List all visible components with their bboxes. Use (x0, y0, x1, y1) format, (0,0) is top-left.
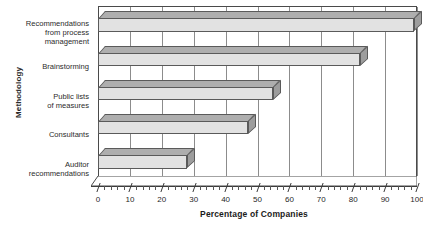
category-label-line: Auditor (65, 160, 89, 169)
x-tick-minor-64 (302, 186, 303, 190)
x-tick-label-10: 10 (125, 195, 134, 204)
x-tick-minor-54 (270, 186, 271, 190)
x-tick-label-100: 100 (410, 195, 423, 204)
x-tick-label-40: 40 (221, 195, 230, 204)
bar (98, 114, 248, 127)
x-tick-minor-8 (124, 186, 125, 190)
x-tick-minor-6 (117, 186, 118, 190)
x-tick-minor-94 (398, 186, 399, 190)
gridline-100 (417, 7, 418, 176)
x-tick-minor-98 (411, 186, 412, 190)
category-label: Consultants (10, 130, 89, 139)
bar-front-face (98, 53, 360, 66)
bar-front-face (98, 18, 414, 31)
bar (98, 11, 414, 24)
x-tick-minor-88 (379, 186, 380, 190)
x-tick-label-80: 80 (349, 195, 358, 204)
x-tick-minor-78 (347, 186, 348, 190)
x-tick-minor-18 (155, 186, 156, 190)
x-tick-minor-56 (277, 186, 278, 190)
x-tick-minor-12 (136, 186, 137, 190)
category-label-line: Consultants (49, 130, 89, 139)
x-tick-label-50: 50 (253, 195, 262, 204)
x-tick-minor-24 (175, 186, 176, 190)
x-tick-minor-28 (187, 186, 188, 190)
category-label-line: from process (45, 28, 89, 37)
bar (98, 46, 360, 59)
x-tick-minor-46 (245, 186, 246, 190)
x-tick-minor-86 (372, 186, 373, 190)
category-label-group: Recommendationsfrom processmanagementBra… (10, 8, 89, 184)
x-tick-minor-62 (296, 186, 297, 190)
x-tick-label-90: 90 (381, 195, 390, 204)
x-tick-minor-34 (206, 186, 207, 190)
x-tick-label-30: 30 (189, 195, 198, 204)
x-tick-minor-38 (219, 186, 220, 190)
x-tick-minor-2 (104, 186, 105, 190)
x-tick-minor-26 (181, 186, 182, 190)
x-tick-minor-44 (238, 186, 239, 190)
x-tick-minor-52 (264, 186, 265, 190)
x-tick-minor-14 (143, 186, 144, 190)
plot-area (91, 6, 417, 186)
x-tick-minor-68 (315, 186, 316, 190)
x-tick-minor-84 (366, 186, 367, 190)
x-tick-minor-92 (391, 186, 392, 190)
bar-group-container (91, 6, 417, 186)
category-label-line: Public lists (53, 92, 89, 101)
category-label: Recommendationsfrom processmanagement (10, 19, 89, 46)
x-tick-minor-32 (200, 186, 201, 190)
x-tick-minor-76 (340, 186, 341, 190)
bar-front-face (98, 87, 273, 100)
x-tick-minor-36 (213, 186, 214, 190)
bar-front-face (98, 121, 248, 134)
bar-chart: ·· ····· ··· ··· Methodology Recommendat… (0, 0, 423, 227)
category-label: Brainstorming (10, 62, 89, 71)
x-tick-minor-58 (283, 186, 284, 190)
x-tick-minor-4 (111, 186, 112, 190)
x-tick-minor-96 (404, 186, 405, 190)
x-tick-minor-82 (360, 186, 361, 190)
bar (98, 80, 273, 93)
x-tick-label-70: 70 (317, 195, 326, 204)
category-label: Auditorrecommendations (10, 160, 89, 178)
category-label-line: recommendations (29, 169, 89, 178)
x-tick-label-0: 0 (96, 195, 100, 204)
x-tick-minor-42 (232, 186, 233, 190)
bar-front-face (98, 155, 187, 168)
x-axis-line (91, 186, 417, 187)
category-label-line: Recommendations (26, 19, 89, 28)
x-tick-minor-72 (328, 186, 329, 190)
category-label-line: management (45, 37, 89, 46)
x-tick-minor-16 (149, 186, 150, 190)
category-label-line: Brainstorming (42, 62, 89, 71)
clipped-title-remnant: ·· ····· ··· ··· (6, 0, 51, 2)
x-tick-minor-48 (251, 186, 252, 190)
x-tick-label-60: 60 (285, 195, 294, 204)
x-axis-title: Percentage of Companies (91, 209, 417, 219)
x-tick-minor-66 (309, 186, 310, 190)
x-tick-minor-74 (334, 186, 335, 190)
x-tick-minor-22 (168, 186, 169, 190)
x-tick-label-20: 20 (157, 195, 166, 204)
bar (98, 148, 187, 161)
category-label-line: of measures (47, 101, 89, 110)
category-label: Public listsof measures (10, 92, 89, 110)
x-axis: 0102030405060708090100 (91, 186, 417, 194)
